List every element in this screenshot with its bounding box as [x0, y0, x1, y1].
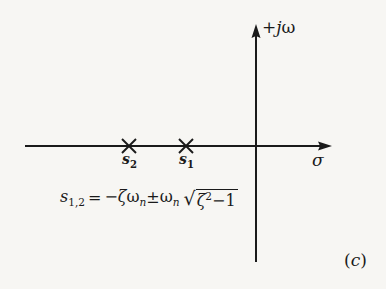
equation-omega-2: ω: [160, 187, 173, 206]
caption-letter: c: [351, 250, 361, 270]
equation-lhs-base: s: [60, 187, 68, 206]
equation-omega-2-subscript-n: n: [173, 196, 180, 208]
s-plane-pole-diagram: +jω σ s2 s1 s1,2 = −ζωn ± ωn √ζ2−1 (c): [0, 0, 386, 289]
imaginary-axis-arrowhead: [252, 24, 261, 38]
equation-radicand: ζ2−1: [196, 189, 238, 209]
equation-omega: ω: [126, 187, 139, 206]
pole-label-s2-base: s: [122, 151, 130, 167]
equation-omega-subscript-n: n: [140, 196, 147, 208]
pole-label-s1-subscript: 1: [187, 159, 194, 170]
equation-radicand-minus: −: [212, 191, 225, 210]
caption-paren-close: ): [360, 250, 367, 270]
imaginary-axis-label-omega: ω: [282, 17, 296, 37]
equation-term-minus-zeta-omega-n: −ζωn: [104, 189, 146, 208]
equation-lhs-subscript: 1,2: [68, 196, 85, 208]
equation-radicand-one: 1: [225, 191, 235, 210]
equation-term-omega-n: ωn: [160, 189, 180, 208]
equation-plus-minus-sign: ±: [146, 190, 159, 206]
equation-equals-sign: =: [88, 190, 101, 206]
pole-label-s2-subscript: 2: [130, 159, 137, 170]
pole-label-s2: s2: [122, 152, 137, 170]
imaginary-axis-label-sign: +: [262, 17, 276, 37]
pole-location-equation: s1,2 = −ζωn ± ωn √ζ2−1: [60, 188, 238, 209]
axes-and-markers: [0, 0, 386, 289]
figure-caption: (c): [344, 252, 367, 269]
equation-lhs: s1,2: [60, 189, 85, 208]
real-axis-label: σ: [312, 152, 324, 169]
caption-paren-open: (: [344, 250, 351, 270]
pole-label-s1: s1: [179, 152, 194, 170]
equation-square-root: √ζ2−1: [184, 188, 238, 209]
pole-label-s1-base: s: [179, 151, 187, 167]
sqrt-icon: √: [184, 189, 196, 210]
equation-minus-sign: −: [104, 187, 117, 206]
imaginary-axis-label: +jω: [262, 19, 295, 36]
